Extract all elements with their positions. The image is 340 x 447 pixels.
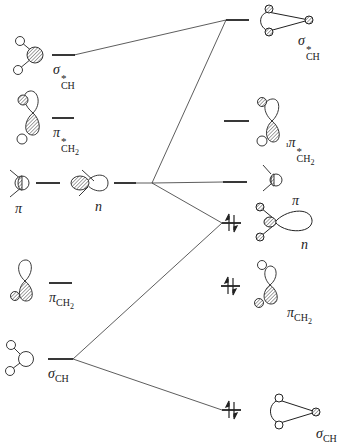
label-right-pi-star-ch2: ıπ*CH2 <box>286 136 314 167</box>
electron-pairs <box>225 214 237 419</box>
orbital-right-pi-icon <box>263 165 282 191</box>
label-right-pi: π <box>292 194 299 208</box>
orbital-left-n-icon <box>71 170 108 196</box>
label-symbol: σ <box>48 366 55 381</box>
orbital-left-pi-star-ch2-icon <box>17 91 39 144</box>
orbital-left-pi-icon <box>10 170 29 197</box>
label-symbol: π <box>49 290 56 305</box>
label-symbol: n <box>95 199 102 214</box>
orbital-right-sigma-ch-icon <box>270 394 320 429</box>
corr-n-pi <box>152 182 223 183</box>
label-symbol: π <box>287 305 294 320</box>
label-subscript: CH <box>297 153 311 164</box>
label-subscript: CH <box>61 81 75 91</box>
orbital-right-pi-star-ch2-icon <box>257 98 279 147</box>
left-levels <box>36 55 136 359</box>
label-right-pi-ch2: πCH2 <box>287 306 312 326</box>
label-symbol: σ <box>316 426 323 441</box>
label-subscript2: 2 <box>70 302 74 311</box>
label-symbol: π <box>15 201 22 216</box>
correlation-lines <box>73 20 226 410</box>
label-right-n: n <box>301 238 308 252</box>
label-symbol: π <box>289 135 296 150</box>
label-symbol: π <box>53 125 60 140</box>
orbital-right-sigma-star-ch-icon <box>261 5 313 36</box>
label-symbol: n <box>301 237 308 252</box>
label-subscript: CH <box>306 52 320 62</box>
label-left-pi-star-ch2: π*CH2 <box>53 126 79 157</box>
orbital-left-sigma-star-ch-icon <box>14 37 44 75</box>
orbital-left-pi-ch2-icon <box>11 260 33 301</box>
label-subscript: CH <box>61 143 75 154</box>
corr-n-sigmastar <box>152 20 226 183</box>
label-subscript: CH <box>55 373 69 384</box>
label-left-n: n <box>95 200 102 214</box>
label-right-sigma-ch: σCH <box>316 427 337 444</box>
orbital-right-n-icon <box>256 203 312 241</box>
corr-sigmach-n <box>73 223 222 359</box>
label-symbol: π <box>292 193 299 208</box>
orbital-left-sigma-ch-icon <box>6 341 34 376</box>
label-left-pi-ch2: πCH2 <box>49 291 74 311</box>
label-subscript: CH <box>323 433 337 444</box>
label-left-sigma-ch: σCH <box>48 367 69 384</box>
orbital-right-pi-ch2-icon <box>255 261 278 308</box>
corr-sigmastar-sigmastar <box>74 20 226 55</box>
label-subscript2: 2 <box>75 148 79 157</box>
label-symbol: σ <box>53 62 60 77</box>
label-subscript: CH <box>56 297 70 308</box>
corr-sigmach-sigmach <box>73 359 222 410</box>
label-left-pi: π <box>15 202 22 216</box>
label-subscript2: 2 <box>308 317 312 326</box>
right-levels <box>221 20 249 410</box>
label-symbol: σ <box>298 33 305 48</box>
label-left-sigma-star-ch: σ*CH <box>53 63 75 91</box>
label-right-sigma-star-ch: σ*CH <box>298 34 320 62</box>
corr-n-n <box>152 183 222 223</box>
label-subscript2: 2 <box>310 158 314 167</box>
label-subscript: CH <box>294 312 308 323</box>
